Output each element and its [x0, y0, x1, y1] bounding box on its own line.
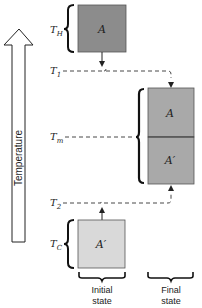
temperature-axis-label: Temperature: [13, 129, 24, 186]
brace-initial-state: [79, 272, 125, 281]
block-final-bottom-label: A′: [164, 154, 176, 167]
arrow-A-down-head: [99, 61, 105, 67]
label-TC: TC: [50, 238, 63, 252]
block-final-top-label: A: [165, 107, 174, 120]
brace-final-state: [148, 272, 193, 281]
brace-Tm: [136, 89, 144, 183]
label-initial-line1: Initial: [91, 285, 112, 295]
brace-TH: [64, 5, 74, 52]
label-final-line1: Final: [161, 285, 181, 295]
label-T2: T2: [50, 197, 62, 211]
label-TH: TH: [50, 24, 64, 38]
dashed-line-T2: [63, 194, 171, 203]
label-initial-line2: state: [92, 296, 112, 306]
label-final-line2: state: [161, 296, 181, 306]
label-Tm: Tm: [50, 131, 64, 145]
arrow-into-final-bottom-head: [168, 185, 174, 191]
block-initial-hot-label: A: [97, 23, 106, 36]
arrow-Aprime-up-head: [99, 207, 105, 213]
brace-TC: [64, 220, 74, 268]
arrow-into-final-head: [168, 82, 174, 88]
block-initial-cold-label: A′: [95, 238, 107, 251]
dashed-line-T1: [63, 69, 171, 78]
thermal-equilibrium-diagram: Temperature A TH T1 A A′ Tm T2 A′ TC Ini…: [0, 0, 202, 308]
label-T1: T1: [50, 65, 61, 79]
